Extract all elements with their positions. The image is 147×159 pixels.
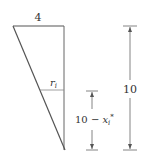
top-width-label: 4	[35, 11, 42, 24]
radius-label: ri	[50, 77, 57, 90]
triangle-diagram: 4 ri 10 − xi* 10	[0, 0, 147, 159]
arrow-up-icon	[128, 27, 132, 32]
arrow-up-icon	[90, 92, 94, 97]
partial-height-label: 10 − xi*	[75, 113, 114, 127]
total-height-label: 10	[123, 83, 137, 96]
arrow-down-icon	[90, 144, 94, 149]
triangle-shape	[13, 26, 65, 150]
triangle-hypotenuse	[13, 26, 65, 150]
arrow-down-icon	[128, 144, 132, 149]
